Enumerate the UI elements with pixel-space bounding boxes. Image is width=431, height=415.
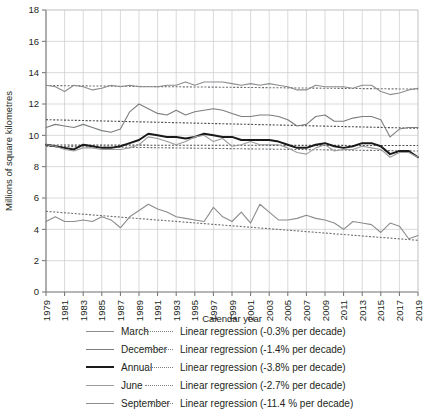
y-tick-label: 16 [28,36,39,47]
y-tick-label: 0 [34,286,39,297]
y-axis-title: Millions of square kilometres [3,91,14,211]
x-tick-label: 2009 [320,300,331,321]
legend-regression-label: Linear regression (-11.4 % per decade) [180,398,353,409]
chart-plot-area: 0246810121416181979198119831985198719891… [0,0,431,325]
x-tick-label: 1979 [41,300,52,321]
x-tick-label: 2017 [394,300,405,321]
legend-regression-label: Linear regression (-3.8% per decade) [180,362,346,373]
legend-regression-label: Linear regression (-1.4% per decade) [180,344,346,355]
x-tick-label: 1991 [152,300,163,321]
legend-regression-label: Linear regression (-0.3% per decade) [180,326,346,337]
legend-series-entry: December [0,344,145,355]
legend-row: JuneLinear regression (-2.7% per decade) [0,376,431,394]
x-tick-label: 2003 [264,300,275,321]
sea-ice-extent-chart: 0246810121416181979198119831985198719891… [0,0,431,415]
legend-regression-entry: Linear regression (-2.7% per decade) [145,380,346,391]
x-tick-label: 2005 [282,300,293,321]
y-tick-label: 8 [34,161,39,172]
legend-dashed-swatch [145,331,173,332]
legend-line-swatch [86,385,114,386]
x-tick-label: 2015 [375,300,386,321]
x-tick-label: 1989 [134,300,145,321]
legend-regression-entry: Linear regression (-11.4 % per decade) [145,398,353,409]
y-tick-label: 10 [28,130,39,141]
legend-line-swatch [86,366,114,368]
legend-series-label: June [121,380,143,391]
y-tick-label: 4 [34,224,39,235]
x-tick-label: 1993 [171,300,182,321]
chart-legend: MarchLinear regression (-0.3% per decade… [0,322,431,415]
legend-regression-entry: Linear regression (-0.3% per decade) [145,326,346,337]
y-tick-label: 6 [34,192,39,203]
legend-series-entry: March [0,326,145,337]
x-tick-label: 2011 [338,300,349,320]
legend-row: MarchLinear regression (-0.3% per decade… [0,322,431,340]
y-tick-label: 14 [28,67,39,78]
legend-line-swatch [86,331,114,332]
legend-dashed-swatch [145,349,173,350]
x-tick-label: 1983 [78,300,89,321]
legend-dashed-swatch [145,367,173,368]
legend-series-entry: June [0,380,145,391]
legend-dashed-swatch [145,385,173,386]
legend-series-entry: September [0,398,145,409]
legend-regression-label: Linear regression (-2.7% per decade) [180,380,346,391]
legend-line-swatch [86,349,114,350]
x-tick-label: 2007 [301,300,312,321]
legend-row: SeptemberLinear regression (-11.4 % per … [0,394,431,412]
legend-regression-entry: Linear regression (-3.8% per decade) [145,362,346,373]
x-tick-label: 2013 [357,300,368,321]
legend-line-swatch [86,403,114,404]
legend-regression-entry: Linear regression (-1.4% per decade) [145,344,346,355]
x-tick-label: 1987 [115,300,126,321]
legend-dashed-swatch [145,403,173,404]
y-tick-label: 2 [34,255,39,266]
x-tick-label: 1995 [189,300,200,321]
legend-row: DecemberLinear regression (-1.4% per dec… [0,340,431,358]
x-tick-label: 2019 [413,300,424,321]
y-tick-label: 12 [28,98,39,109]
x-tick-label: 1985 [96,300,107,321]
x-tick-label: 1981 [59,300,70,321]
legend-row: AnnualLinear regression (-3.8% per decad… [0,358,431,376]
y-tick-label: 18 [28,4,39,15]
legend-series-entry: Annual [0,362,145,373]
